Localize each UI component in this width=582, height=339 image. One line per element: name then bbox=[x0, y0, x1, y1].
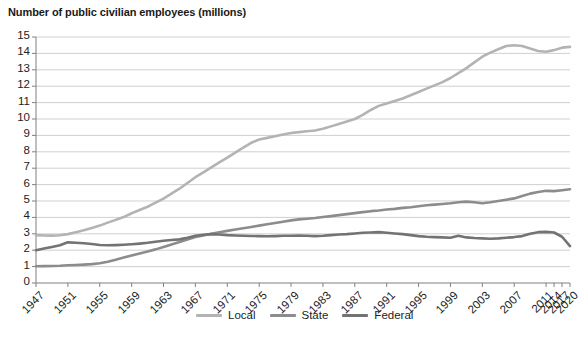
chart-legend: LocalStateFederal bbox=[196, 309, 413, 321]
y-tick-label: 12 bbox=[6, 78, 30, 90]
legend-swatch-icon bbox=[196, 314, 222, 317]
legend-swatch-icon bbox=[342, 314, 368, 317]
legend-label: Federal bbox=[374, 309, 413, 321]
y-tick-label: 0 bbox=[6, 275, 30, 287]
legend-label: Local bbox=[228, 309, 256, 321]
y-tick-label: 11 bbox=[6, 95, 30, 107]
y-tick-label: 13 bbox=[6, 62, 30, 74]
y-tick-label: 8 bbox=[6, 144, 30, 156]
y-tick-label: 1 bbox=[6, 259, 30, 271]
series-lines bbox=[36, 45, 570, 266]
legend-item-federal[interactable]: Federal bbox=[342, 309, 413, 321]
legend-item-local[interactable]: Local bbox=[196, 309, 256, 321]
legend-label: State bbox=[302, 309, 329, 321]
y-tick-label: 6 bbox=[6, 177, 30, 189]
y-tick-label: 5 bbox=[6, 193, 30, 205]
y-tick-label: 14 bbox=[6, 45, 30, 57]
y-tick-label: 15 bbox=[6, 29, 30, 41]
y-tick-label: 2 bbox=[6, 242, 30, 254]
y-tick-label: 7 bbox=[6, 160, 30, 172]
series-line-local bbox=[36, 45, 570, 235]
legend-swatch-icon bbox=[270, 314, 296, 317]
series-line-federal bbox=[36, 232, 570, 250]
y-tick-label: 4 bbox=[6, 209, 30, 221]
y-tick-label: 3 bbox=[6, 226, 30, 238]
legend-item-state[interactable]: State bbox=[270, 309, 329, 321]
line-chart-plot bbox=[0, 0, 582, 339]
axis-ticks bbox=[32, 37, 570, 287]
chart-container: Number of public civilian employees (mil… bbox=[0, 0, 582, 339]
y-tick-label: 10 bbox=[6, 111, 30, 123]
y-tick-label: 9 bbox=[6, 127, 30, 139]
